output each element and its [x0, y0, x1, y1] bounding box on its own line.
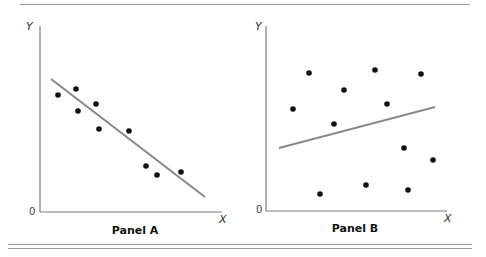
panel-b-data-point	[363, 182, 369, 188]
panel-a-title: Panel A	[112, 224, 159, 237]
panel-b-trend-line	[279, 107, 435, 148]
panel-a-trend-line	[51, 79, 205, 197]
panel-b-data-point	[290, 106, 296, 112]
panel-b-data-point	[317, 191, 323, 197]
panel-a-data-point	[75, 108, 81, 114]
panel-a-y-label: Y	[26, 20, 33, 33]
panel-b-data-point	[418, 71, 424, 77]
scatter-plots	[0, 0, 486, 257]
panel-a-x-label: X	[219, 213, 227, 226]
panel-b-data-point	[405, 187, 411, 193]
panel-b-title: Panel B	[332, 222, 378, 235]
panel-b-data-point	[341, 87, 347, 93]
panel-b-data-point	[401, 145, 407, 151]
panel-b-x-label: X	[444, 212, 452, 225]
panel-a-data-point	[143, 163, 149, 169]
panel-b-y-label: Y	[255, 20, 262, 33]
panel-a-data-point	[154, 172, 160, 178]
panel-a-data-point	[55, 92, 61, 98]
panel-b-data-point	[430, 157, 436, 163]
panel-b-data-point	[306, 70, 312, 76]
panel-b-data-point	[372, 67, 378, 73]
panel-a-data-point	[178, 169, 184, 175]
panel-a-data-point	[96, 126, 102, 132]
panel-b-data-point	[384, 101, 390, 107]
panel-a-origin-label: 0	[29, 206, 35, 217]
panel-a-data-point	[73, 86, 79, 92]
panel-a-data-point	[126, 128, 132, 134]
panel-a-data-point	[93, 101, 99, 107]
panel-b-data-point	[331, 121, 337, 127]
panel-b-origin-label: 0	[256, 204, 262, 215]
